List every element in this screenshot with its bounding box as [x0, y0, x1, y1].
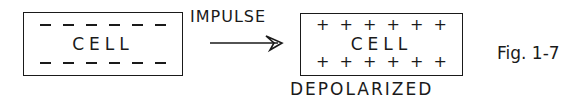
negative-charge — [109, 62, 120, 64]
arrow-right-icon — [208, 33, 288, 53]
negative-charge — [155, 24, 166, 26]
cell-label: CELL — [24, 35, 182, 53]
positive-charge: + — [340, 54, 353, 70]
positive-charge: + — [434, 17, 447, 33]
cell-label: CELL — [301, 35, 462, 53]
negative-charge — [63, 24, 74, 26]
positive-charge: + — [387, 17, 400, 33]
positive-charge: + — [410, 17, 423, 33]
negative-charge — [132, 62, 143, 64]
positive-charge: + — [316, 17, 329, 33]
negative-charge — [63, 62, 74, 64]
negative-charge — [40, 62, 51, 64]
positive-charge: + — [316, 54, 329, 70]
positive-charges-bottom: + + + + + + — [301, 54, 462, 70]
negative-charge — [109, 24, 120, 26]
negative-charges-top — [24, 17, 182, 26]
negative-charges-bottom — [24, 55, 182, 64]
depolarized-label: DEPOLARIZED — [290, 80, 433, 98]
positive-charge: + — [410, 54, 423, 70]
negative-charge — [155, 62, 166, 64]
negative-charge — [86, 62, 97, 64]
impulse-label: IMPULSE — [190, 8, 266, 26]
positive-charge: + — [340, 17, 353, 33]
depolarized-cell-box: + + + + + + CELL + + + + + + — [300, 13, 463, 76]
positive-charge: + — [434, 54, 447, 70]
negative-charge — [132, 24, 143, 26]
negative-charge — [40, 24, 51, 26]
figure-caption: Fig. 1-7 — [497, 43, 560, 63]
negative-charge — [86, 24, 97, 26]
positive-charge: + — [387, 54, 400, 70]
positive-charge: + — [363, 17, 376, 33]
positive-charge: + — [363, 54, 376, 70]
polarized-cell-box: CELL — [23, 12, 183, 76]
positive-charges-top: + + + + + + — [301, 17, 462, 33]
